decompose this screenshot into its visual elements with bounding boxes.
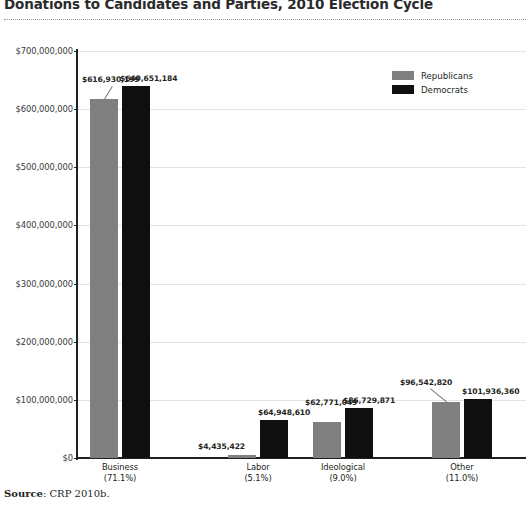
y-axis-tick [74,51,78,52]
y-axis-tick-label: $500,000,000 [16,162,73,172]
y-axis-tick [74,342,78,343]
legend-label-republicans: Republicans [421,71,473,81]
y-axis-tick-label: $400,000,000 [16,220,73,230]
bar-value-label: $101,936,360 [462,387,519,396]
x-axis-category-label: Labor(5.1%) [213,462,303,483]
legend-item-republicans[interactable]: Republicans [392,70,473,81]
source-note: Source: CRP 2010b. [4,488,110,499]
bar-value-label: $4,435,422 [198,442,245,451]
bar-value-label: $640,651,184 [120,74,177,83]
bar-labor-republicans[interactable] [228,455,256,458]
legend-swatch-democrats [392,85,414,94]
y-axis-tick [74,225,78,226]
bar-business-republicans[interactable] [90,99,118,458]
page-title: Donations to Candidates and Parties, 201… [4,0,433,12]
bar-other-republicans[interactable] [432,402,460,458]
plot-area: $0$100,000,000$200,000,000$300,000,000$4… [78,51,526,458]
bar-ideological-republicans[interactable] [313,422,341,458]
gridline [78,51,526,52]
y-axis-tick [74,400,78,401]
y-axis-tick-label: $100,000,000 [16,395,73,405]
y-axis-tick-label: $700,000,000 [16,46,73,56]
chart-legend: RepublicansDemocrats [392,70,473,98]
category-name: Ideological [298,462,388,473]
x-axis-category-label: Business(71.1%) [75,462,165,483]
bar-value-label: $64,948,610 [258,408,310,417]
legend-item-democrats[interactable]: Democrats [392,84,473,95]
legend-swatch-republicans [392,71,414,80]
category-name: Business [75,462,165,473]
y-axis-tick [74,458,78,459]
y-axis-tick [74,109,78,110]
y-axis-tick [74,167,78,168]
source-separator: : [43,488,46,499]
source-label: Source [4,488,43,499]
title-divider [4,19,526,20]
label-leader-line [104,86,113,100]
category-share: (71.1%) [75,473,165,484]
bar-other-democrats[interactable] [464,399,492,458]
bar-business-democrats[interactable] [122,86,150,458]
legend-label-democrats: Democrats [421,85,468,95]
bar-labor-democrats[interactable] [260,420,288,458]
y-axis-tick [74,284,78,285]
gridline [78,458,526,459]
bar-value-label: $96,542,820 [400,378,452,387]
category-share: (5.1%) [213,473,303,484]
category-share: (11.0%) [417,473,507,484]
bar-value-label: $86,729,871 [343,396,395,405]
source-text: CRP 2010b. [49,488,109,499]
x-axis-category-label: Ideological(9.0%) [298,462,388,483]
category-share: (9.0%) [298,473,388,484]
y-axis-tick-label: $200,000,000 [16,337,73,347]
bar-ideological-democrats[interactable] [345,408,373,458]
category-name: Labor [213,462,303,473]
x-axis-category-label: Other(11.0%) [417,462,507,483]
y-axis-tick-label: $300,000,000 [16,279,73,289]
y-axis-tick-label: $0 [63,453,73,463]
y-axis-tick-label: $600,000,000 [16,104,73,114]
category-name: Other [417,462,507,473]
